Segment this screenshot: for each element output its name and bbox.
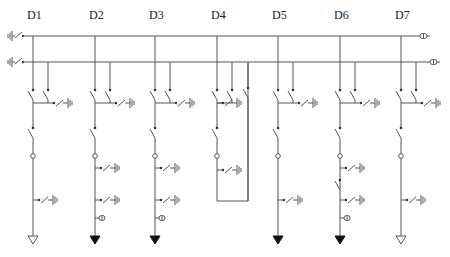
voltage-transformer-icon xyxy=(430,60,440,65)
bay-labels: D1D2D3D4D5D6D7 xyxy=(27,8,410,22)
line-disconnector-icon xyxy=(150,127,156,138)
bus-side-earthing-switch-icon xyxy=(110,98,134,108)
bus2-disconnector-icon xyxy=(411,89,417,100)
circuit-breaker-icon xyxy=(399,154,404,159)
bay-label-d2: D2 xyxy=(89,8,104,22)
bus2-disconnector-icon xyxy=(227,89,233,100)
line-earthing-switch-icon xyxy=(95,195,119,205)
current-transformer-icon xyxy=(340,216,350,221)
circuit-breaker-icon xyxy=(338,154,343,159)
bay-d3 xyxy=(150,36,194,244)
line-earthing-switch-icon xyxy=(155,195,179,205)
bus2-disconnector-icon xyxy=(43,89,49,100)
bus-earthing-switch-icon xyxy=(8,31,24,41)
line-disconnector-icon xyxy=(28,127,34,138)
line-disconnector-icon xyxy=(90,127,96,138)
line-disconnector-icon xyxy=(396,127,402,138)
voltage-transformer-icon xyxy=(420,34,430,39)
bus1-disconnector-icon xyxy=(90,89,96,100)
cable-terminal-filled-icon xyxy=(273,236,283,244)
bay-d5 xyxy=(273,36,317,244)
line-disconnector-icon xyxy=(273,127,279,138)
circuit-breaker-icon xyxy=(31,154,36,159)
bay-label-d1: D1 xyxy=(27,8,42,22)
bus2-disconnector-icon xyxy=(105,89,111,100)
bay-d4 xyxy=(212,36,249,201)
bay-label-d5: D5 xyxy=(272,8,287,22)
current-transformer-icon xyxy=(155,216,165,221)
bay-label-d3: D3 xyxy=(149,8,164,22)
bus1-disconnector-icon xyxy=(335,89,341,100)
bus-earthing-switch-icon xyxy=(8,57,24,67)
bay-label-d7: D7 xyxy=(395,8,410,22)
bays xyxy=(28,36,440,244)
circuit-breaker-icon xyxy=(215,154,220,159)
cable-terminal-filled-icon xyxy=(90,236,100,244)
line-disconnector-icon xyxy=(335,127,341,138)
bus1-disconnector-icon xyxy=(273,89,279,100)
bay-label-d6: D6 xyxy=(334,8,349,22)
bus-2 xyxy=(8,57,440,67)
cable-terminal-open-icon xyxy=(28,236,38,244)
bus-side-earthing-switch-icon xyxy=(355,98,379,108)
circuit-breaker-icon xyxy=(276,154,281,159)
circuit-breaker-icon xyxy=(93,154,98,159)
earthing-switch-icon xyxy=(340,163,364,173)
bus1-disconnector-icon xyxy=(212,89,218,100)
bus1-disconnector-icon xyxy=(28,89,34,100)
current-transformer-icon xyxy=(95,216,105,221)
bus2-disconnector-icon xyxy=(165,89,171,100)
bus1-disconnector-icon xyxy=(396,89,402,100)
line-earthing-switch-icon xyxy=(33,195,57,205)
cable-terminal-filled-icon xyxy=(335,236,345,244)
bus-1 xyxy=(8,31,430,41)
bay-d7 xyxy=(396,36,440,244)
single-line-diagram: D1D2D3D4D5D6D7 xyxy=(0,0,450,257)
bus2-disconnector-icon xyxy=(350,89,356,100)
line-earthing-switch-icon xyxy=(278,195,302,205)
earthing-switch-icon xyxy=(95,163,119,173)
bay-d2 xyxy=(90,36,134,244)
bay-d6 xyxy=(335,36,379,244)
busbars xyxy=(8,31,440,67)
bus-side-earthing-switch-icon xyxy=(170,98,194,108)
bus-side-earthing-switch-icon xyxy=(293,98,317,108)
cable-terminal-filled-icon xyxy=(150,236,160,244)
earthing-switch-icon xyxy=(217,165,241,175)
circuit-breaker-icon xyxy=(153,154,158,159)
earthing-switch-icon xyxy=(155,163,179,173)
bay-d1 xyxy=(28,36,72,244)
line-earthing-switch-icon xyxy=(401,195,425,205)
bus-side-earthing-switch-icon xyxy=(48,98,72,108)
line-disconnector-icon xyxy=(212,127,218,138)
bus2-disconnector-icon xyxy=(288,89,294,100)
bus1-disconnector-icon xyxy=(150,89,156,100)
bay-label-d4: D4 xyxy=(211,8,226,22)
line-earthing-switch-icon xyxy=(340,195,364,205)
bus-side-earthing-switch-icon xyxy=(217,98,241,108)
bus-side-earthing-switch-icon xyxy=(416,98,440,108)
cable-terminal-open-icon xyxy=(396,236,406,244)
